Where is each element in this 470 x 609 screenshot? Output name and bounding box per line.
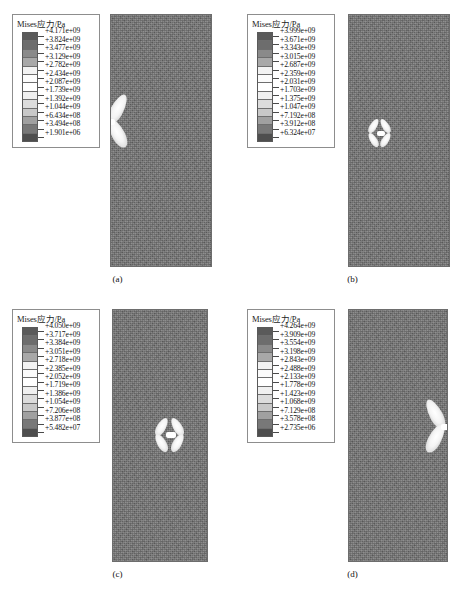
colorbar-band — [258, 75, 272, 83]
colorbar-band — [23, 336, 37, 344]
colorbar-tick — [38, 78, 44, 79]
colorbar-band — [23, 395, 37, 403]
colorbar-a — [22, 32, 38, 142]
legend-level-label: +1.901e+06 — [45, 129, 80, 137]
colorbar-tick — [273, 339, 279, 340]
legend-labels-c: +4.050e+09+3.717e+09+3.384e+09+3.051e+09… — [45, 322, 103, 440]
colorbar-band — [258, 345, 272, 353]
colorbar-tick — [38, 339, 44, 340]
colorbar-tick — [273, 348, 279, 349]
colorbar-tick — [38, 95, 44, 96]
panel-b: Mises应力/Pa +3.999e+09+3.671e+09+3.343e+0… — [235, 2, 470, 302]
legend-a: Mises应力/Pa +4.171e+09+3.824e+09+3.477e+0… — [12, 14, 100, 148]
colorbar-band — [23, 58, 37, 66]
colorbar-band — [258, 412, 272, 420]
colorbar-band — [258, 353, 272, 361]
colorbar-band — [23, 134, 37, 141]
colorbar-tick — [273, 53, 279, 54]
colorbar-tick — [273, 103, 279, 104]
colorbar-tick — [38, 112, 44, 113]
colorbar-tick — [273, 373, 279, 374]
colorbar-tick — [38, 36, 44, 37]
colorbar-tick — [273, 390, 279, 391]
colorbar-band — [23, 41, 37, 49]
colorbar-band — [258, 41, 272, 49]
colorbar-d — [257, 327, 273, 437]
stress-concentration-b — [369, 119, 399, 149]
colorbar-band — [258, 404, 272, 412]
colorbar-tick — [38, 365, 44, 366]
colorbar-tick — [38, 331, 44, 332]
colorbar-band — [258, 429, 272, 436]
colorbar-tick — [38, 120, 44, 121]
legend-level-label: +3.384e+09 — [45, 339, 80, 347]
legend-labels-b: +3.999e+09+3.671e+09+3.343e+09+3.015e+09… — [280, 27, 338, 145]
colorbar-tick — [273, 44, 279, 45]
colorbar-tick — [273, 407, 279, 408]
colorbar-band — [23, 429, 37, 436]
legend-level-label: +2.687e+09 — [280, 61, 315, 69]
colorbar-band — [23, 362, 37, 370]
colorbar-tick — [38, 53, 44, 54]
legend-level-label: +3.343e+09 — [280, 44, 315, 52]
colorbar-band — [23, 33, 37, 41]
caption-d: (d) — [235, 569, 470, 579]
colorbar-tick — [38, 415, 44, 416]
colorbar-tick — [273, 398, 279, 399]
colorbar-tick — [273, 70, 279, 71]
colorbar-band — [258, 67, 272, 75]
colorbar-tick — [38, 70, 44, 71]
colorbar-band — [258, 378, 272, 386]
colorbar-c — [22, 327, 38, 437]
colorbar-tick — [38, 137, 44, 138]
legend-level-label: +2.843e+09 — [280, 356, 315, 364]
colorbar-band — [23, 125, 37, 133]
caption-c: (c) — [0, 569, 235, 579]
colorbar-band — [258, 125, 272, 133]
colorbar-tick — [38, 398, 44, 399]
legend-c: Mises应力/Pa +4.050e+09+3.717e+09+3.384e+0… — [12, 309, 100, 443]
colorbar-tick — [38, 356, 44, 357]
colorbar-band — [258, 50, 272, 58]
colorbar-tick — [38, 87, 44, 88]
stress-field-texture-b — [349, 15, 449, 266]
stress-concentration-a — [110, 97, 141, 149]
colorbar-tick — [38, 390, 44, 391]
colorbar-band — [23, 50, 37, 58]
colorbar-band — [258, 109, 272, 117]
colorbar-band — [23, 83, 37, 91]
panel-d: Mises应力/Pa +4.264e+09+3.909e+09+3.554e+0… — [235, 297, 470, 597]
legend-d: Mises应力/Pa +4.264e+09+3.909e+09+3.554e+0… — [247, 309, 335, 443]
colorbar-band — [23, 75, 37, 83]
colorbar-band — [23, 92, 37, 100]
legend-level-label: +6.324e+07 — [280, 129, 315, 137]
legend-labels-d: +4.264e+09+3.909e+09+3.554e+09+3.198e+09… — [280, 322, 338, 440]
colorbar-band — [258, 362, 272, 370]
figure-mises-stress-contours: Mises应力/Pa +4.171e+09+3.824e+09+3.477e+0… — [0, 0, 470, 609]
legend-level-label: +3.477e+09 — [45, 44, 80, 52]
colorbar-tick — [38, 103, 44, 104]
colorbar-tick — [38, 382, 44, 383]
legend-b: Mises应力/Pa +3.999e+09+3.671e+09+3.343e+0… — [247, 14, 335, 148]
colorbar-tick — [273, 36, 279, 37]
colorbar-band — [258, 58, 272, 66]
colorbar-band — [258, 134, 272, 141]
colorbar-tick — [38, 373, 44, 374]
colorbar-band — [23, 117, 37, 125]
colorbar-b — [257, 32, 273, 142]
colorbar-tick — [273, 432, 279, 433]
colorbar-tick — [273, 356, 279, 357]
caption-a: (a) — [0, 274, 235, 284]
colorbar-band — [23, 100, 37, 108]
colorbar-tick — [273, 78, 279, 79]
colorbar-band — [23, 370, 37, 378]
colorbar-band — [258, 92, 272, 100]
colorbar-tick — [38, 129, 44, 130]
stress-core — [110, 119, 115, 125]
stress-concentration-c — [157, 418, 191, 452]
specimen-plot-a — [110, 14, 212, 267]
colorbar-tick — [273, 95, 279, 96]
colorbar-tick — [38, 348, 44, 349]
colorbar-band — [258, 336, 272, 344]
colorbar-tick — [38, 44, 44, 45]
